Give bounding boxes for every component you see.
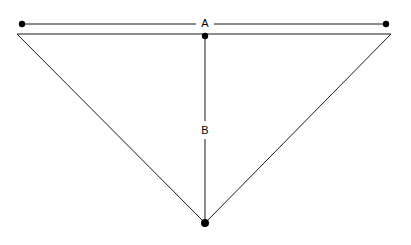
dimension-line-b: B: [201, 33, 209, 227]
dimension-b-end-dot: [201, 219, 209, 227]
geometry-diagram: A B: [0, 0, 411, 245]
dimension-a-end-dot: [383, 21, 389, 27]
dimension-a-start-dot: [19, 21, 25, 27]
dimension-a-label: A: [201, 17, 209, 29]
diagram-canvas: A B: [0, 0, 411, 245]
dimension-b-label: B: [201, 124, 208, 136]
dimension-b-start-dot: [202, 33, 208, 39]
dimension-line-a: A: [19, 17, 389, 29]
